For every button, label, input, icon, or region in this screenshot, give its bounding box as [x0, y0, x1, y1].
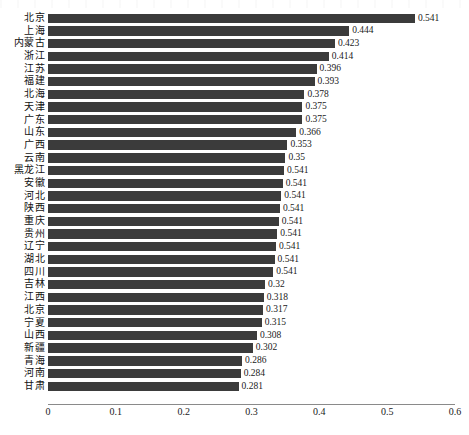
category-label: 甘肃	[0, 380, 45, 393]
bar-row: 浙江0.414	[0, 50, 469, 63]
bar-group: 0.302	[48, 343, 277, 352]
bar	[48, 204, 280, 213]
category-label: 重庆	[0, 215, 45, 228]
bar-chart: 北京0.541上海0.444内蒙古0.423浙江0.414江苏0.396福建0.…	[0, 0, 469, 435]
plot-area: 北京0.541上海0.444内蒙古0.423浙江0.414江苏0.396福建0.…	[0, 12, 469, 404]
bar-row: 山西0.308	[0, 329, 469, 342]
bar	[48, 77, 315, 86]
x-tick-label: 0.6	[449, 406, 462, 417]
bar-row: 重庆0.541	[0, 215, 469, 228]
category-label: 内蒙古	[0, 37, 45, 50]
bar-value-label: 0.541	[280, 229, 301, 238]
category-label: 云南	[0, 152, 45, 165]
bar-group: 0.444	[48, 26, 374, 35]
bar-value-label: 0.284	[244, 369, 265, 378]
bar-row: 四川0.541	[0, 266, 469, 279]
bar-row: 北京0.541	[0, 12, 469, 25]
category-label: 江西	[0, 291, 45, 304]
bar	[48, 382, 239, 391]
bar-group: 0.315	[48, 318, 286, 327]
bar	[48, 102, 302, 111]
category-label: 湖北	[0, 253, 45, 266]
bar-group: 0.286	[48, 356, 266, 365]
bar-group: 0.375	[48, 115, 327, 124]
bar-value-label: 0.396	[320, 64, 341, 73]
bar-value-label: 0.366	[299, 128, 320, 137]
x-axis-line	[48, 404, 455, 405]
category-label: 陕西	[0, 202, 45, 215]
category-label: 河南	[0, 367, 45, 380]
bar-row: 广东0.375	[0, 114, 469, 127]
bar-row: 山东0.366	[0, 126, 469, 139]
bar-group: 0.414	[48, 52, 353, 61]
bar	[48, 39, 335, 48]
bar-row: 福建0.393	[0, 75, 469, 88]
bar	[48, 242, 276, 251]
bar-value-label: 0.541	[282, 217, 303, 226]
bar	[48, 14, 415, 23]
bar-row: 云南0.35	[0, 152, 469, 165]
bar-group: 0.366	[48, 128, 321, 137]
category-label: 北京	[0, 12, 45, 25]
bar-value-label: 0.541	[286, 179, 307, 188]
bar-row: 广西0.353	[0, 139, 469, 152]
bar-value-label: 0.444	[352, 26, 373, 35]
bar	[48, 90, 304, 99]
category-label: 北海	[0, 88, 45, 101]
bar-row: 内蒙古0.423	[0, 37, 469, 50]
category-label: 贵州	[0, 228, 45, 241]
category-label: 上海	[0, 25, 45, 38]
bar-group: 0.541	[48, 14, 439, 23]
bar-group: 0.541	[48, 242, 300, 251]
category-label: 广西	[0, 139, 45, 152]
bar-value-label: 0.281	[242, 382, 263, 391]
bar-value-label: 0.375	[305, 115, 326, 124]
bar-value-label: 0.541	[284, 191, 305, 200]
category-label: 辽宁	[0, 240, 45, 253]
bar	[48, 343, 253, 352]
bar-row: 陕西0.541	[0, 202, 469, 215]
bar-group: 0.35	[48, 153, 305, 162]
bar	[48, 318, 262, 327]
bar	[48, 166, 284, 175]
bar	[48, 229, 277, 238]
bar-value-label: 0.414	[332, 52, 353, 61]
bar-group: 0.541	[48, 255, 299, 264]
x-tick-label: 0	[46, 406, 51, 417]
bar-group: 0.353	[48, 140, 312, 149]
category-label: 天津	[0, 101, 45, 114]
bar	[48, 52, 329, 61]
bar-group: 0.378	[48, 90, 329, 99]
bar-group: 0.393	[48, 77, 339, 86]
bar-row: 江苏0.396	[0, 63, 469, 76]
bar-group: 0.396	[48, 64, 341, 73]
bar	[48, 267, 273, 276]
bar	[48, 280, 265, 289]
bar-group: 0.32	[48, 280, 285, 289]
bar-value-label: 0.35	[288, 153, 305, 162]
category-label: 青海	[0, 355, 45, 368]
bar	[48, 26, 349, 35]
bar	[48, 179, 283, 188]
bar	[48, 191, 281, 200]
bar-group: 0.541	[48, 217, 303, 226]
bar-value-label: 0.378	[307, 90, 328, 99]
bar-value-label: 0.541	[418, 14, 439, 23]
bar-group: 0.375	[48, 102, 327, 111]
bar-group: 0.308	[48, 331, 281, 340]
bar-group: 0.281	[48, 382, 263, 391]
bar-group: 0.541	[48, 267, 298, 276]
category-label: 新疆	[0, 342, 45, 355]
bar-value-label: 0.393	[318, 77, 339, 86]
bar	[48, 140, 287, 149]
x-tick-label: 0.5	[381, 406, 394, 417]
bar-group: 0.318	[48, 293, 288, 302]
bar-value-label: 0.302	[256, 343, 277, 352]
bar-group: 0.541	[48, 179, 307, 188]
category-label: 河北	[0, 190, 45, 203]
bar-value-label: 0.541	[283, 204, 304, 213]
bar-group: 0.541	[48, 229, 302, 238]
bar	[48, 356, 242, 365]
bar-value-label: 0.541	[279, 242, 300, 251]
bar-value-label: 0.375	[305, 102, 326, 111]
